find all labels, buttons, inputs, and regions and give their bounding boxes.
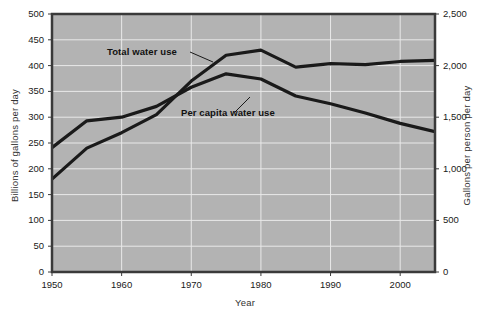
series-label-total-water-use: Total water use	[107, 46, 177, 57]
x-axis-tick-label: 1990	[311, 279, 351, 290]
y-axis-right-tick-label: 500	[443, 214, 483, 225]
y-axis-right-tick-label: 2,000	[443, 60, 483, 71]
x-axis-tick-label: 1960	[102, 279, 142, 290]
y-axis-left-tick-label: 50	[10, 240, 44, 251]
series-label-per-capita-water-use: Per capita water use	[181, 107, 275, 118]
y-axis-left-title: Billions of gallons per day	[9, 86, 20, 206]
y-axis-left-tick-label: 500	[10, 8, 44, 19]
chart-plot-area	[0, 0, 488, 318]
y-axis-left-tick-label: 100	[10, 214, 44, 225]
y-axis-left-tick-label: 450	[10, 34, 44, 45]
water-use-chart: 050100150200250300350400450500 05001,000…	[0, 0, 488, 318]
x-axis-tick-label: 2000	[380, 279, 420, 290]
x-axis-tick-label: 1950	[32, 279, 72, 290]
y-axis-left-tick-label: 0	[10, 266, 44, 277]
y-axis-right-tick-label: 0	[443, 266, 483, 277]
y-axis-left-tick-label: 400	[10, 60, 44, 71]
y-axis-right-tick-label: 2,500	[443, 8, 483, 19]
x-axis-title: Year	[200, 297, 290, 308]
x-axis-tick-label: 1980	[241, 279, 281, 290]
x-axis-tick-label: 1970	[171, 279, 211, 290]
y-axis-right-title: Gallons per person per day	[461, 86, 472, 206]
